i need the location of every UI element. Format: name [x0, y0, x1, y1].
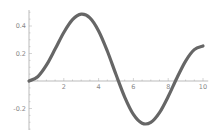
- x-tick-label: 6: [131, 83, 135, 91]
- y-tick-label: -0.2: [13, 105, 26, 113]
- x-tick-label: 8: [166, 83, 170, 91]
- x-tick-label: 2: [62, 83, 66, 91]
- x-tick-label: 10: [199, 83, 207, 91]
- y-tick-label: 0.4: [16, 22, 26, 30]
- tick-labels: 246810-0.20.20.4: [13, 22, 207, 113]
- y-tick-label: 0.2: [16, 50, 26, 58]
- data-series-line: [29, 14, 203, 124]
- x-tick-label: 4: [97, 83, 101, 91]
- line-chart: 246810-0.20.20.4: [0, 0, 220, 138]
